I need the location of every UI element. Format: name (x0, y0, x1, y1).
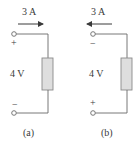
panel-a: 3 A + − 4 V (a) (10, 6, 53, 139)
wire-top-b (95, 34, 127, 58)
voltage-label-a: 4 V (10, 68, 25, 79)
current-label-b: 3 A (91, 6, 106, 17)
terminal-bottom-a (12, 111, 17, 116)
caption-b: (b) (101, 127, 113, 139)
caption-a: (a) (23, 127, 34, 139)
polarity-top-a: + (11, 37, 17, 48)
wire-bottom-a (16, 90, 48, 113)
element-a (42, 58, 53, 90)
panel-b: 3 A − + 4 V (b) (87, 6, 132, 139)
polarity-bottom-a: − (12, 99, 18, 110)
terminal-bottom-b (91, 111, 96, 116)
wire-top-a (16, 34, 48, 58)
polarity-top-b: − (90, 38, 96, 49)
element-b (121, 58, 132, 90)
terminal-top-b (91, 32, 96, 37)
current-label-a: 3 A (22, 6, 37, 17)
terminal-top-a (12, 32, 17, 37)
voltage-label-b: 4 V (89, 68, 104, 79)
polarity-bottom-b: + (90, 97, 96, 108)
circuit-figure: 3 A + − 4 V (a) 3 A − + 4 V (b) (0, 0, 140, 146)
wire-bottom-b (95, 90, 127, 113)
